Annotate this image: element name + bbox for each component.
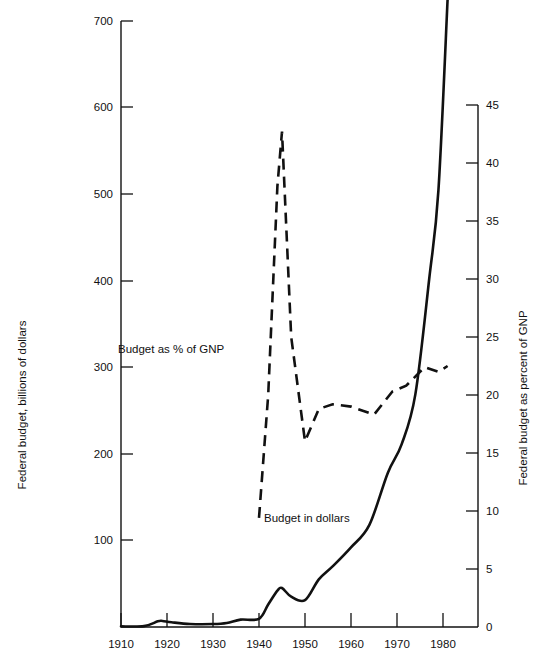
right-tick-label-10: 10 bbox=[486, 505, 499, 517]
x-tick-label-1910: 1910 bbox=[108, 638, 134, 650]
x-axis: 1910 1920 1930 1940 1950 1960 1970 1980 bbox=[108, 613, 478, 650]
x-tick-label-1980: 1980 bbox=[430, 638, 456, 650]
right-tick-label-35: 35 bbox=[486, 215, 499, 227]
chart-plot-area: 700 600 500 400 300 200 100 Federal budg… bbox=[0, 0, 537, 655]
right-tick-label-30: 30 bbox=[486, 273, 499, 285]
x-tick-label-1930: 1930 bbox=[200, 638, 226, 650]
right-tick-label-40: 40 bbox=[486, 157, 499, 169]
chart-figure: 700 600 500 400 300 200 100 Federal budg… bbox=[0, 0, 537, 655]
right-axis: 45 40 35 30 25 20 15 10 5 0 Federal budg… bbox=[466, 99, 529, 633]
right-tick-label-0: 0 bbox=[486, 621, 492, 633]
right-axis-title: Federal budget as percent of GNP bbox=[517, 310, 529, 485]
x-tick-label-1940: 1940 bbox=[246, 638, 272, 650]
left-axis: 700 600 500 400 300 200 100 Federal budg… bbox=[16, 15, 133, 627]
left-tick-label-200: 200 bbox=[94, 448, 113, 460]
right-tick-label-20: 20 bbox=[486, 389, 499, 401]
x-tick-label-1960: 1960 bbox=[338, 638, 364, 650]
right-tick-label-5: 5 bbox=[486, 563, 492, 575]
left-tick-label-100: 100 bbox=[94, 534, 113, 546]
left-axis-ticks bbox=[121, 21, 133, 540]
x-tick-label-1920: 1920 bbox=[154, 638, 180, 650]
series-budget-percent-gnp bbox=[259, 132, 448, 518]
right-tick-label-45: 45 bbox=[486, 99, 499, 111]
x-axis-ticks bbox=[121, 613, 443, 627]
left-tick-label-400: 400 bbox=[94, 275, 113, 287]
series-budget-in-dollars bbox=[121, 0, 448, 627]
left-tick-label-700: 700 bbox=[94, 15, 113, 27]
annotation-budget-as-percent-gnp: Budget as % of GNP bbox=[118, 343, 224, 355]
left-tick-label-600: 600 bbox=[94, 101, 113, 113]
annotation-budget-in-dollars: Budget in dollars bbox=[264, 512, 350, 524]
left-axis-title: Federal budget, billions of dollars bbox=[16, 320, 28, 489]
right-axis-ticks bbox=[466, 105, 478, 569]
left-tick-label-500: 500 bbox=[94, 188, 113, 200]
left-tick-label-300: 300 bbox=[94, 361, 113, 373]
x-tick-label-1950: 1950 bbox=[292, 638, 318, 650]
right-tick-label-15: 15 bbox=[486, 447, 499, 459]
right-tick-label-25: 25 bbox=[486, 331, 499, 343]
x-tick-label-1970: 1970 bbox=[384, 638, 410, 650]
